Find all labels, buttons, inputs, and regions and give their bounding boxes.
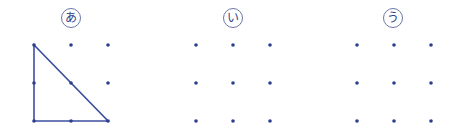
grid-dot: [231, 81, 235, 85]
grid-dot: [429, 119, 433, 123]
grid-dot: [69, 119, 73, 123]
grid-dot: [355, 81, 359, 85]
grid-dot: [392, 43, 396, 47]
grid-dot: [355, 119, 359, 123]
grid-dot: [106, 81, 110, 85]
grid-dot: [106, 43, 110, 47]
grid-dot: [392, 81, 396, 85]
grid-dot: [32, 81, 36, 85]
grid-dot: [355, 43, 359, 47]
grid-dot: [194, 43, 198, 47]
grid-dot: [392, 119, 396, 123]
grid-dot: [69, 81, 73, 85]
grid-dot: [106, 119, 110, 123]
grid-dot: [268, 43, 272, 47]
grid-dot: [429, 81, 433, 85]
grid-dot: [194, 119, 198, 123]
grid-dot: [231, 43, 235, 47]
grid-dot: [231, 119, 235, 123]
grid-dot: [268, 81, 272, 85]
grid-dot: [268, 119, 272, 123]
grid-dot: [69, 43, 73, 47]
grid-dot: [429, 43, 433, 47]
grid-dot: [194, 81, 198, 85]
grid-dot: [32, 43, 36, 47]
dot-grid-canvas: [0, 0, 455, 137]
grid-dot: [32, 119, 36, 123]
